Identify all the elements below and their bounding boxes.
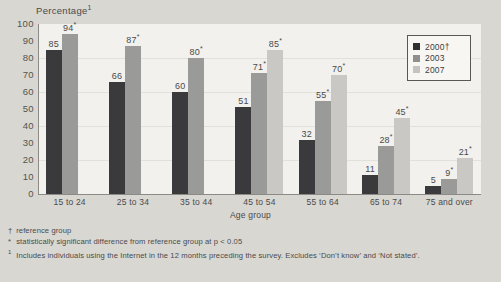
bar-slot: 71* [251,24,267,194]
x-axis-title: Age group [0,210,501,220]
bar-slot: 66 [109,24,125,194]
footnote-text: reference group [14,226,71,235]
bar-slot: 85 [46,24,62,194]
significance-marker: * [450,166,453,173]
bar-slot: 55* [315,24,331,194]
significance-marker: * [263,60,266,67]
y-tick-label: 60 [23,87,34,97]
footnote: † reference group [8,226,496,237]
chart-figure: Percentage1 1009080706050403020100 8594*… [0,0,501,282]
bar-value-label: 87* [126,32,139,45]
bar-group: 5171*85* [228,24,291,194]
y-tick-label: 30 [23,138,34,148]
bar[interactable]: 11 [362,175,378,194]
bar-value-label: 5 [431,176,436,185]
legend-item-label: 2000† [425,42,450,52]
bar[interactable]: 66 [109,82,125,194]
legend: 2000†20032007 [407,35,471,81]
bar-value-label: 45* [395,104,408,117]
bar[interactable]: 45* [394,118,410,195]
bar-slot: 11 [362,24,378,194]
bar[interactable]: 85* [267,50,283,195]
y-tick-label: 50 [23,104,34,114]
bar-value-label: 85 [48,40,58,49]
legend-swatch-icon [413,43,420,50]
significance-marker: * [200,45,203,52]
x-tick-label: 25 to 34 [101,198,164,207]
bar-value-label: 51 [238,97,248,106]
bar[interactable]: 60 [172,92,188,194]
bar-slot: 80* [188,24,204,194]
bar-value-label: 21* [459,144,472,157]
bar-value-label: 71* [253,59,266,72]
bar-group: 3255*70* [291,24,354,194]
bar-value-label: 66 [112,72,122,81]
bar-slot [204,24,220,194]
x-tick-label: 65 to 74 [354,198,417,207]
bar-slot: 28* [378,24,394,194]
x-tick-label: 15 to 24 [38,198,101,207]
bar-group: 8594* [38,24,101,194]
significance-marker: * [327,88,330,95]
bar[interactable]: 80* [188,58,204,194]
x-tick-label: 55 to 64 [291,198,354,207]
bar-slot: 70* [331,24,347,194]
y-axis-title-text: Percentage [36,5,88,16]
bar[interactable]: 70* [331,75,347,194]
bar[interactable]: 5 [425,186,441,195]
bar-value-label: 28* [379,132,392,145]
bar-value-label: 94* [63,20,76,33]
y-tick-label: 70 [23,70,34,80]
bar-slot: 94* [62,24,78,194]
x-tick-label: 75 and over [418,198,481,207]
bar[interactable]: 55* [315,101,331,195]
bar[interactable]: 9* [441,179,457,194]
bar-value-label: 32 [302,130,312,139]
footnote: * statistically significant difference f… [8,237,496,248]
significance-marker: * [73,21,76,28]
y-tick-label: 80 [23,53,34,63]
y-tick-label: 90 [23,36,34,46]
bar-value-label: 60 [175,82,185,91]
bar-slot [141,24,157,194]
bar-slot: 87* [125,24,141,194]
significance-marker: * [469,145,472,152]
bar[interactable]: 85 [46,50,62,195]
bar[interactable]: 28* [378,146,394,194]
footnote-text: Includes individuals using the Internet … [14,251,420,260]
bar-value-label: 80* [190,44,203,57]
bar-value-label: 70* [332,61,345,74]
bar-slot: 85* [267,24,283,194]
bar[interactable]: 32 [299,140,315,194]
legend-item[interactable]: 2000† [413,42,465,52]
y-tick-label: 20 [23,155,34,165]
significance-marker: * [343,62,346,69]
significance-marker: * [406,105,409,112]
y-tick-label: 10 [23,172,34,182]
legend-item-label: 2007 [425,65,445,75]
footnote-text: statistically significant difference fro… [14,237,242,246]
footnotes: † reference group* statistically signifi… [8,226,496,261]
y-tick-label: 40 [23,121,34,131]
legend-item[interactable]: 2003 [413,53,465,63]
y-axis-title-superscript: 1 [88,4,92,11]
legend-item-label: 2003 [425,53,445,63]
bar-slot [78,24,94,194]
bar[interactable]: 87* [125,46,141,194]
y-axis-tick-labels: 1009080706050403020100 [0,24,34,195]
y-tick-label: 100 [17,19,34,29]
bar[interactable]: 71* [251,73,267,194]
x-tick-label: 45 to 54 [228,198,291,207]
significance-marker: * [137,33,140,40]
legend-item[interactable]: 2007 [413,65,465,75]
x-axis-line [38,194,481,195]
bar[interactable]: 94* [62,34,78,194]
bar-value-label: 11 [365,165,375,174]
significance-marker: * [279,37,282,44]
legend-swatch-icon [413,55,420,62]
bar-slot: 32 [299,24,315,194]
significance-marker: * [390,133,393,140]
bar[interactable]: 21* [457,158,473,194]
bar-group: 6687* [101,24,164,194]
bar[interactable]: 51 [235,107,251,194]
